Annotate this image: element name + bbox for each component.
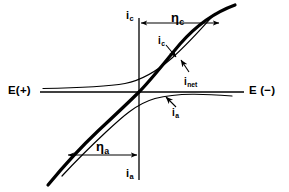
axis-lines (40, 18, 244, 180)
axis-label-e-negative: E (−) (249, 85, 275, 97)
curve-label-inet: inet (184, 77, 197, 87)
curve-label-ic: ic (158, 36, 165, 46)
axis-label-e-positive: E(+) (8, 85, 31, 97)
annotation-label-eta-c: ηc (171, 11, 184, 24)
annotation-label-eta-a-text: η (96, 139, 104, 154)
axis-label-ic: ic (126, 10, 134, 21)
annotation-label-eta-c-sub: c (179, 17, 184, 27)
polarization-curve-figure: ic ia E(+) E (−) ηc ηa ic inet ia (0, 0, 289, 192)
annotation-label-eta-a: ηa (96, 140, 109, 153)
annotation-label-eta-c-text: η (171, 10, 179, 25)
leader-i-a (166, 97, 176, 107)
curve-label-ic-sub: c (161, 40, 165, 47)
annotation-label-eta-a-sub: a (104, 146, 109, 156)
figure-canvas (0, 0, 289, 192)
leader-i-net (181, 60, 189, 72)
axis-label-ia: ia (126, 168, 134, 179)
curve-label-ia-sub: a (175, 112, 179, 119)
curve-i-a (62, 94, 232, 176)
axis-label-ic-sub: c (129, 14, 133, 23)
axis-label-ia-sub: a (129, 172, 133, 181)
curve-label-ia: ia (172, 108, 179, 118)
curve-label-inet-sub: net (187, 81, 197, 88)
